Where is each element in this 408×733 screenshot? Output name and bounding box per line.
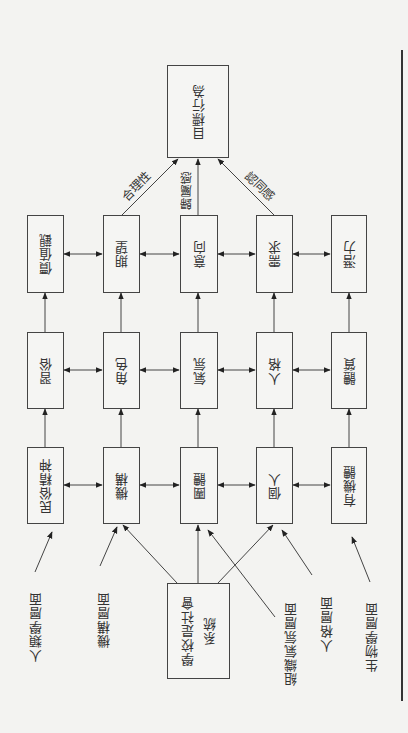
box-expectations: 期望 [103, 215, 140, 293]
box-needs: 需求 [256, 215, 293, 293]
layer-organizational-climate: 組織氣氛層面 [278, 594, 302, 694]
target-behavior-label: 目標行為 [189, 84, 208, 140]
box-institution: 機構 [103, 447, 140, 524]
target-behavior-box: 目標行為 [167, 65, 229, 158]
box-role: 角色 [103, 332, 140, 409]
right-border-line [401, 50, 403, 701]
box-personality: 人格 [256, 332, 293, 409]
box-constitution: 體質 [331, 332, 367, 409]
box-intentions: 意向 [180, 215, 218, 293]
school-social-system-box: 學校是社會 系統 [167, 583, 230, 679]
box-ethos: 民俗精神 [27, 447, 64, 524]
layer-anthropological: 人類學層面 [23, 582, 47, 672]
box-group: 團體 [180, 447, 218, 524]
box-values: 價值觀 [27, 215, 64, 293]
layer-biological: 生物學層面 [359, 590, 383, 684]
box-climate: 氣氛 [180, 332, 218, 409]
layer-institutional: 機構層面 [91, 580, 115, 660]
layer-personality: 人格層面 [314, 583, 338, 665]
school-social-system-label: 學校是社會 系統 [177, 596, 221, 666]
box-organism: 有機體 [331, 447, 367, 524]
edge-label-belonging: 歸屬感 [176, 168, 196, 212]
box-customs: 習俗 [27, 332, 64, 409]
box-potential: 潛力 [331, 215, 367, 293]
box-individual: 個人 [256, 447, 293, 524]
